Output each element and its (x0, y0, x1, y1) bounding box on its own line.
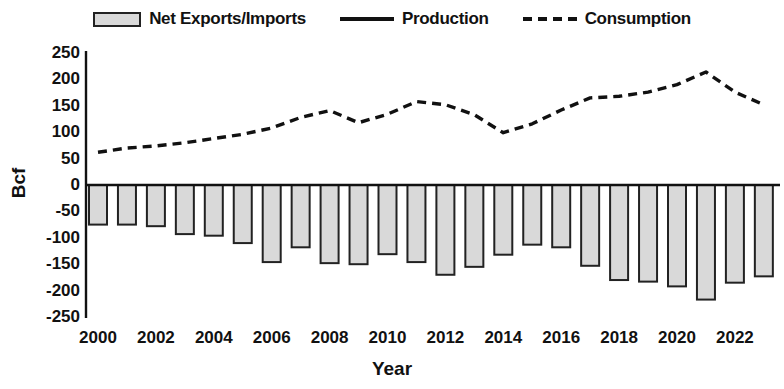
plot-area (0, 36, 784, 326)
bar (234, 185, 252, 243)
legend-item-consumption: Consumption (523, 9, 691, 29)
net-exports-production-consumption-chart: Net Exports/Imports Production Consumpti… (0, 0, 784, 389)
y-tick-label: 100 (22, 122, 80, 142)
x-tick-label: 2002 (137, 328, 175, 348)
bar (494, 185, 512, 255)
filled-bar-swatch-icon (93, 12, 141, 27)
y-tick-label: 50 (22, 149, 80, 169)
x-tick-label: 2010 (369, 328, 407, 348)
plot-svg (0, 36, 784, 326)
x-tick-label: 2004 (195, 328, 233, 348)
bar (465, 185, 483, 267)
bar (118, 185, 136, 225)
bar (263, 185, 281, 262)
x-axis-title: Year (0, 358, 784, 380)
y-tick-label: 150 (22, 96, 80, 116)
x-tick-label: 2020 (658, 328, 696, 348)
bar (726, 185, 744, 283)
legend-item-net-exports-imports: Net Exports/Imports (93, 9, 306, 29)
bar (436, 185, 454, 275)
bar (552, 185, 570, 247)
y-tick-label: -150 (22, 254, 80, 274)
x-tick-label: 2018 (600, 328, 638, 348)
y-tick-label: 250 (22, 43, 80, 63)
x-tick-label: 2006 (253, 328, 291, 348)
bar (321, 185, 339, 263)
bar (379, 185, 397, 254)
bar (668, 185, 686, 286)
legend-item-production: Production (340, 9, 489, 29)
x-tick-label: 2000 (79, 328, 117, 348)
bar-series-net-exports-imports (89, 185, 773, 300)
bar (292, 185, 310, 247)
x-tick-label: 2016 (542, 328, 580, 348)
solid-line-swatch-icon (340, 17, 394, 21)
y-tick-label: -100 (22, 228, 80, 248)
legend-label-net-exports-imports: Net Exports/Imports (149, 9, 306, 29)
bar (610, 185, 628, 280)
x-axis-tick-labels: 2000200220042006200820102012201420162018… (0, 328, 784, 356)
y-axis-title: Bcf (8, 143, 30, 223)
bar (697, 185, 715, 300)
line-series-consumption (98, 72, 764, 152)
bar (639, 185, 657, 282)
y-tick-label: -200 (22, 281, 80, 301)
legend-label-consumption: Consumption (585, 9, 691, 29)
bar (350, 185, 368, 264)
x-tick-label: 2008 (311, 328, 349, 348)
x-tick-label: 2014 (484, 328, 522, 348)
y-tick-label: -250 (22, 307, 80, 327)
bar (205, 185, 223, 236)
x-tick-label: 2022 (716, 328, 754, 348)
chart-legend: Net Exports/Imports Production Consumpti… (0, 2, 784, 36)
legend-label-production: Production (402, 9, 489, 29)
bar (523, 185, 541, 245)
x-tick-label: 2012 (426, 328, 464, 348)
y-tick-label: -50 (22, 201, 80, 221)
bar (89, 185, 107, 225)
bar (176, 185, 194, 234)
bar (581, 185, 599, 266)
bar (755, 185, 773, 276)
y-tick-label: 200 (22, 69, 80, 89)
bar (407, 185, 425, 262)
bar (147, 185, 165, 226)
y-tick-label: 0 (22, 175, 80, 195)
dashed-line-swatch-icon (523, 17, 577, 21)
